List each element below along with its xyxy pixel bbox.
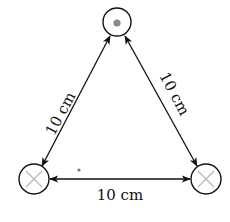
bottom-side-label: 10 cm <box>97 186 143 204</box>
left-side-label: 10 cm <box>42 89 80 138</box>
triangle-wire-diagram: 10 cm 10 cm 10 cm <box>0 0 230 222</box>
top-wire-node <box>103 8 131 36</box>
bottom-left-wire-node <box>19 164 49 194</box>
bottom-right-wire-node <box>191 164 221 194</box>
right-side-label: 10 cm <box>156 69 194 118</box>
dot-icon <box>113 19 120 26</box>
marker-dot <box>77 168 80 171</box>
